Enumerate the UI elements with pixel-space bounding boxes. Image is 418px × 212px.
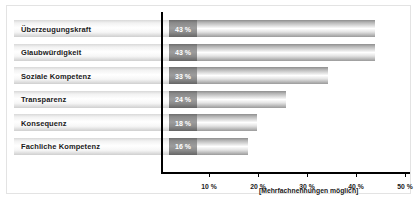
category-label-strip: Soziale Kompetenz: [14, 67, 169, 84]
bar: [169, 44, 375, 61]
chart-row: Überzeugungskraft 43 %: [14, 17, 418, 41]
x-axis-tick: [405, 173, 406, 177]
y-axis-line: [161, 12, 163, 172]
category-label-strip: Überzeugungskraft: [14, 20, 169, 37]
bar-track: 24 %: [169, 91, 418, 108]
bar-track: 18 %: [169, 114, 418, 131]
category-label: Fachliche Kompetenz: [21, 142, 100, 151]
chart-row: Konsequenz 18 %: [14, 111, 418, 135]
bar-track: 33 %: [169, 67, 418, 84]
bar-track: 43 %: [169, 20, 418, 37]
x-axis-tick: [258, 173, 259, 177]
category-label-strip: Glaubwürdigkeit: [14, 44, 169, 61]
value-swatch: 43 %: [169, 20, 197, 37]
value-swatch: 18 %: [169, 114, 197, 131]
bar-track: 43 %: [169, 44, 418, 61]
x-axis-line: [161, 172, 410, 174]
x-axis-tick: [356, 173, 357, 177]
category-label: Überzeugungskraft: [21, 24, 91, 33]
category-label: Transparenz: [21, 95, 66, 104]
bar-track: 16 %: [169, 138, 418, 155]
x-tick-label: 10 %: [201, 183, 217, 190]
value-label: 16 %: [169, 143, 197, 150]
cropped-bottom-caption: [8, 204, 128, 212]
x-axis-tick: [307, 173, 308, 177]
value-label: 43 %: [169, 49, 197, 56]
category-label-strip: Transparenz: [14, 91, 169, 108]
x-tick-label: 50 %: [397, 183, 413, 190]
value-swatch: 24 %: [169, 91, 197, 108]
chart-row: Fachliche Kompetenz 16 %: [14, 135, 418, 159]
value-swatch: 43 %: [169, 44, 197, 61]
value-label: 43 %: [169, 25, 197, 32]
chart-row: Glaubwürdigkeit 43 %: [14, 41, 418, 65]
chart-frame: Überzeugungskraft 43 % Glaubwürdigkeit 4…: [6, 5, 411, 194]
category-label: Soziale Kompetenz: [21, 71, 91, 80]
category-label: Konsequenz: [21, 118, 67, 127]
value-swatch: 33 %: [169, 67, 197, 84]
value-label: 24 %: [169, 96, 197, 103]
value-swatch: 16 %: [169, 138, 197, 155]
bar: [169, 20, 375, 37]
value-label: 18 %: [169, 119, 197, 126]
category-label-strip: Fachliche Kompetenz: [14, 138, 169, 155]
chart-footnote: [Mehrfachnennungen möglich]: [259, 187, 358, 194]
bar-chart-rows: Überzeugungskraft 43 % Glaubwürdigkeit 4…: [14, 17, 418, 177]
x-axis-tick: [209, 173, 210, 177]
chart-row: Transparenz 24 %: [14, 88, 418, 112]
category-label-strip: Konsequenz: [14, 114, 169, 131]
chart-row: Soziale Kompetenz 33 %: [14, 64, 418, 88]
value-label: 33 %: [169, 72, 197, 79]
category-label: Glaubwürdigkeit: [21, 48, 81, 57]
